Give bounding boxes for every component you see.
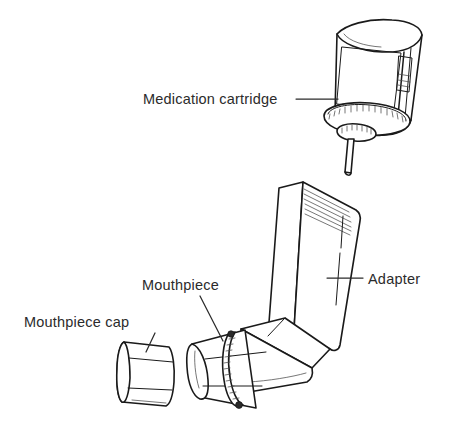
- cartridge-valve-stem: [345, 139, 354, 173]
- adapter-front-face: [294, 182, 360, 350]
- cartridge-valve-ferrule: [337, 124, 376, 141]
- mouthpiece-collar-bottom-node: [236, 402, 243, 409]
- mouthpiece-collar-top-node: [228, 331, 234, 337]
- callout-label-mouthpiece-cap: Mouthpiece cap: [24, 314, 129, 330]
- callout-label-mouthpiece: Mouthpiece: [142, 277, 219, 293]
- callout-label-medication-cartridge: Medication cartridge: [143, 91, 278, 107]
- part-adapter: [240, 182, 360, 392]
- cap-open-end: [117, 342, 130, 402]
- callout-label-adapter: Adapter: [368, 271, 420, 287]
- diagram-canvas: Medication cartridge Adapter Mouthpiece …: [0, 0, 452, 427]
- inhaler-exploded-diagram: Medication cartridge Adapter Mouthpiece …: [0, 0, 452, 427]
- part-medication-cartridge: [324, 20, 422, 175]
- leader-mouthpiece: [200, 296, 223, 341]
